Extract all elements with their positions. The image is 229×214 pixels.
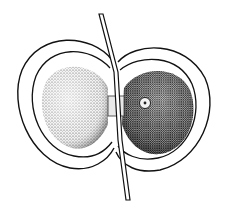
right-cell xyxy=(122,71,193,154)
specimen-illustration xyxy=(0,0,229,214)
left-cell xyxy=(42,67,108,149)
